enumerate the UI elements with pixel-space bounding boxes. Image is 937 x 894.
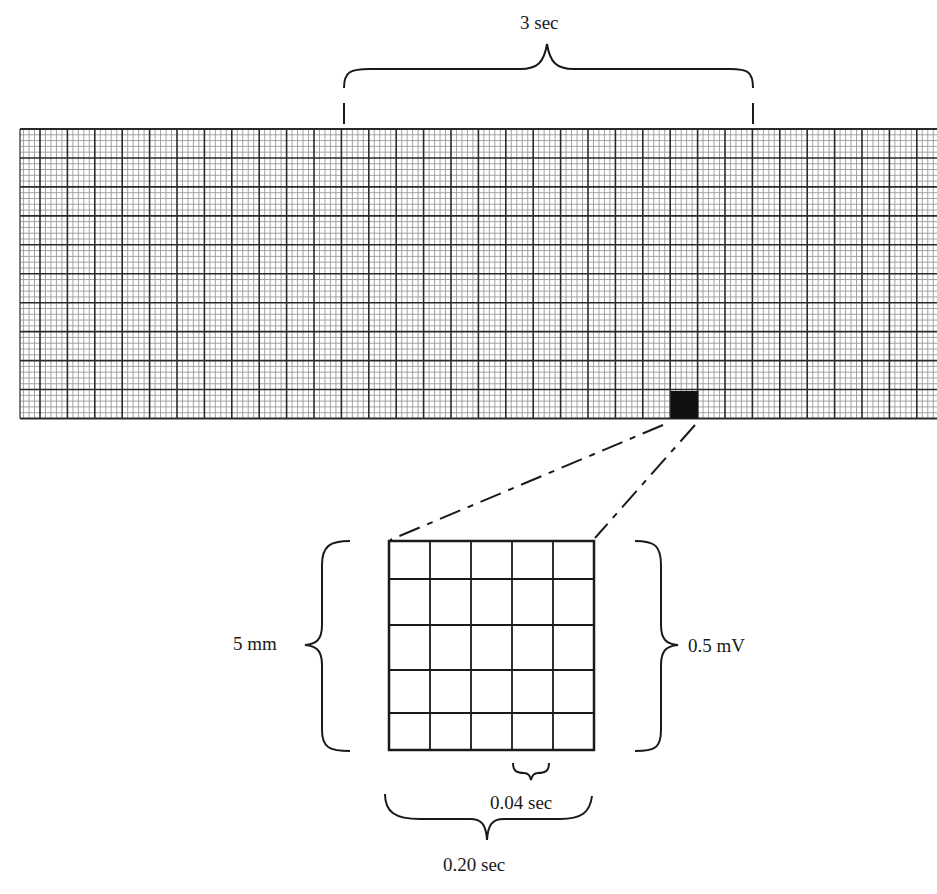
small-square-time-label: 0.04 sec <box>490 793 552 812</box>
big-square-time-brace <box>385 794 592 840</box>
height-label: 5 mm <box>233 634 277 653</box>
projection-lines <box>390 425 695 540</box>
ecg-grid-diagram <box>0 0 937 894</box>
voltage-brace <box>635 541 678 751</box>
time-span-label: 3 sec <box>520 13 559 32</box>
enlarged-big-square <box>389 541 594 750</box>
ecg-paper-strip <box>20 129 937 419</box>
small-square-time-brace <box>513 763 549 780</box>
big-square-time-label: 0.20 sec <box>443 855 505 874</box>
voltage-label: 0.5 mV <box>688 636 745 655</box>
highlighted-big-square <box>671 391 698 419</box>
three-second-bracket <box>344 44 753 124</box>
height-brace <box>305 541 350 751</box>
